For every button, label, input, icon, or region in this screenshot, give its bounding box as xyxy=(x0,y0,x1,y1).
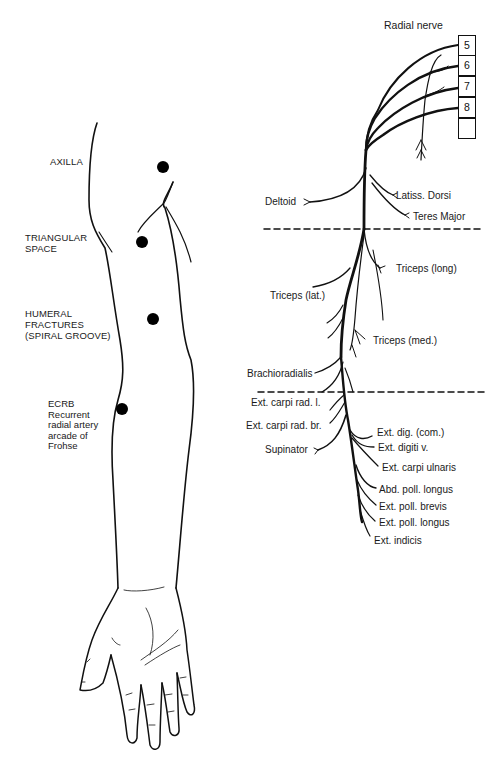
root-c8: 8 xyxy=(458,97,476,118)
site-dot-axilla xyxy=(157,161,169,173)
root-c7: 7 xyxy=(458,76,476,97)
label-ext-carpi-rad-br: Ext. carpi rad. br. xyxy=(246,420,322,432)
diagram-artwork xyxy=(0,0,500,765)
site-dot-triangular-space xyxy=(136,236,148,248)
label-humeral-fractures: HUMERAL FRACTURES (SPIRAL GROOVE) xyxy=(25,308,111,341)
label-triceps-med: Triceps (med.) xyxy=(373,335,437,347)
label-ext-poll-brevis: Ext. poll. brevis xyxy=(379,501,447,513)
site-dot-arcade-of-frohse xyxy=(116,403,128,415)
hand-outline xyxy=(80,587,194,749)
label-triceps-long: Triceps (long) xyxy=(396,263,457,275)
label-ext-poll-longus: Ext. poll. longus xyxy=(379,517,450,529)
label-triceps-lat: Triceps (lat.) xyxy=(270,290,325,302)
arm-outline xyxy=(89,123,194,588)
root-t1 xyxy=(458,118,476,139)
label-ext-indicis: Ext. indicis xyxy=(374,535,422,547)
label-supinator: Supinator xyxy=(265,444,308,456)
label-brachioradialis: Brachioradialis xyxy=(247,368,313,380)
root-c5: 5 xyxy=(458,35,476,56)
label-latiss-dorsi: Latiss. Dorsi xyxy=(396,190,451,202)
label-ext-dig-com: Ext. dig. (com.) xyxy=(377,427,444,439)
site-dot-spiral-groove xyxy=(147,313,159,325)
label-triangular-space: TRIANGULAR SPACE xyxy=(25,232,87,254)
diagram-title: Radial nerve xyxy=(384,19,443,31)
label-axilla: AXILLA xyxy=(50,156,83,167)
root-c6: 6 xyxy=(458,55,476,76)
label-arcade-of-frohse: ECRB Recurrent radial artery arcade of F… xyxy=(48,399,98,452)
label-abd-poll-longus: Abd. poll. longus xyxy=(379,484,453,496)
label-ext-carpi-ulnaris: Ext. carpi ulnaris xyxy=(382,462,456,474)
site-markers xyxy=(116,161,169,415)
label-ext-digiti-v: Ext. digiti v. xyxy=(378,442,428,454)
label-teres-major: Teres Major xyxy=(413,211,465,223)
label-ext-carpi-rad-l: Ext. carpi rad. l. xyxy=(251,397,320,409)
label-deltoid: Deltoid xyxy=(265,196,296,208)
